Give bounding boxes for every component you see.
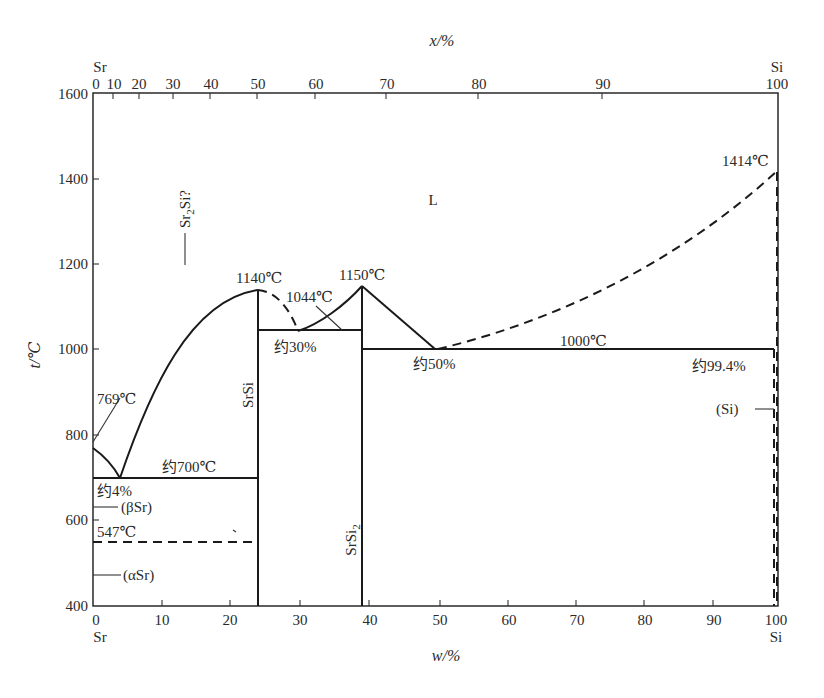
top-tick-40: 40	[204, 76, 219, 92]
bottom-tick-100: 100	[765, 612, 788, 628]
bottom-tick-40: 40	[363, 612, 378, 628]
top-tick-20: 20	[132, 76, 147, 92]
annotations: L Sr2Si? SrSi SrSi2 769℃ 约700℃ 约4% (βSr)…	[97, 153, 769, 584]
top-tick-80: 80	[472, 76, 487, 92]
bottom-tick-50: 50	[433, 612, 448, 628]
x-axis-top: 0 10 20 30 40 50 60 70 80 90 100 Sr Si x…	[92, 32, 788, 99]
y-tick-1400: 1400	[58, 171, 88, 187]
x-top-axis-title: x/%	[429, 32, 455, 49]
bottom-element-si: Si	[770, 629, 783, 645]
label-30pct: 约30%	[274, 339, 317, 355]
label-4pct: 约4%	[97, 483, 132, 499]
liquidus-sr-side	[93, 448, 120, 478]
srsi2-label: SrSi2	[343, 524, 362, 555]
srsi-label: SrSi	[240, 382, 256, 408]
label-50pct: 约50%	[413, 356, 456, 372]
leader-1044	[316, 306, 342, 330]
phase-diagram: 1600 1400 1200 1000 800 600 400 t/℃ 0 10…	[0, 0, 824, 698]
y-tick-1200: 1200	[58, 256, 88, 272]
label-1414c: 1414℃	[722, 153, 769, 169]
top-tick-90: 90	[596, 76, 611, 92]
bottom-tick-20: 20	[223, 612, 238, 628]
label-547c: 547℃	[97, 524, 136, 540]
bottom-tick-60: 60	[502, 612, 517, 628]
bottom-tick-70: 70	[570, 612, 585, 628]
y-tick-600: 600	[66, 512, 89, 528]
y-tick-1600: 1600	[58, 86, 88, 102]
liquid-region-label: L	[428, 192, 437, 208]
top-tick-0: 0	[92, 76, 100, 92]
label-1000c: 1000℃	[560, 333, 607, 349]
label-1150c: 1150℃	[339, 267, 385, 283]
bottom-tick-30: 30	[293, 612, 308, 628]
bottom-tick-0: 0	[92, 612, 100, 628]
y-axis-title: t/℃	[26, 342, 43, 369]
phase-boundaries	[93, 172, 777, 606]
x-bottom-axis-title: w/%	[432, 647, 460, 664]
label-99-4pct: 约99.4%	[692, 358, 746, 374]
top-element-sr: Sr	[93, 59, 106, 75]
label-si-phase: (Si)	[716, 401, 739, 418]
bottom-tick-10: 10	[155, 612, 170, 628]
bottom-tick-90: 90	[707, 612, 722, 628]
label-alpha-sr: (αSr)	[123, 567, 154, 584]
top-tick-100: 100	[766, 76, 789, 92]
y-tick-400: 400	[66, 598, 89, 614]
top-element-si: Si	[771, 59, 784, 75]
x-axis-bottom: 0 10 20 30 40 50 60 70 80 90 100 Sr Si w…	[92, 600, 787, 664]
y-axis: 1600 1400 1200 1000 800 600 400 t/℃	[26, 86, 99, 614]
y-tick-800: 800	[66, 427, 89, 443]
liquidus-srsi-left	[120, 290, 258, 478]
top-tick-70: 70	[380, 76, 395, 92]
top-tick-60: 60	[309, 76, 324, 92]
top-tick-30: 30	[166, 76, 181, 92]
top-tick-10: 10	[107, 76, 122, 92]
liquidus-srsi2-right	[362, 286, 435, 349]
bottom-element-sr: Sr	[93, 629, 106, 645]
top-tick-50: 50	[251, 76, 266, 92]
leader-lines	[93, 233, 774, 575]
label-700c: 约700℃	[162, 459, 216, 475]
label-beta-sr: (βSr)	[121, 499, 152, 516]
y-tick-1000: 1000	[58, 341, 88, 357]
sr2si-label: Sr2Si?	[177, 190, 196, 228]
liquidus-si-side-dashed	[438, 172, 776, 349]
label-1140c: 1140℃	[236, 270, 282, 286]
label-769c: 769℃	[97, 391, 136, 407]
speck-mark	[233, 530, 236, 532]
label-1044c: 1044℃	[286, 289, 333, 305]
bottom-tick-80: 80	[638, 612, 653, 628]
